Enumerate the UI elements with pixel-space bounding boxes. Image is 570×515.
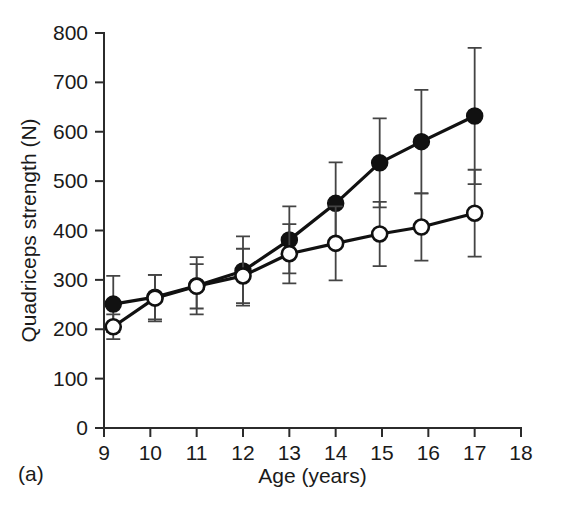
- data-point-open: [372, 226, 387, 241]
- x-tick-label: 14: [324, 441, 348, 464]
- y-tick-label: 300: [53, 268, 88, 291]
- data-point-open: [189, 279, 204, 294]
- x-tick-label: 18: [509, 441, 532, 464]
- data-point-open: [467, 206, 482, 221]
- x-tick-label: 13: [278, 441, 301, 464]
- data-point-open: [236, 268, 251, 283]
- data-point-filled: [372, 155, 388, 171]
- x-tick-label: 16: [417, 441, 440, 464]
- x-tick-label: 12: [231, 441, 254, 464]
- x-axis-title: Age (years): [258, 464, 367, 487]
- x-tick-label: 11: [186, 441, 208, 464]
- data-point-open: [282, 246, 297, 261]
- y-tick-label: 100: [53, 367, 88, 390]
- data-point-open: [106, 319, 121, 334]
- y-tick-label: 0: [76, 416, 88, 439]
- data-point-filled: [467, 108, 483, 124]
- data-point-open: [328, 236, 343, 251]
- x-tick-label: 9: [98, 441, 110, 464]
- data-point-open: [414, 220, 429, 235]
- x-tick-label: 17: [463, 441, 486, 464]
- y-tick-label: 700: [53, 70, 88, 93]
- x-tick-label: 15: [370, 441, 393, 464]
- figure-panel: 0100200300400500600700800 91011121314151…: [0, 0, 570, 515]
- data-point-filled: [105, 296, 121, 312]
- data-point-open: [147, 291, 162, 306]
- y-tick-label: 800: [53, 21, 88, 44]
- y-tick-label: 400: [53, 219, 88, 242]
- y-axis-title: Quadriceps strength (N): [17, 118, 40, 342]
- quadriceps-strength-chart: 0100200300400500600700800 91011121314151…: [0, 0, 570, 515]
- panel-label: (a): [18, 462, 44, 485]
- y-tick-label: 600: [53, 120, 88, 143]
- y-tick-label: 500: [53, 169, 88, 192]
- x-tick-label: 10: [139, 441, 162, 464]
- y-tick-label: 200: [53, 317, 88, 340]
- data-point-filled: [413, 134, 429, 150]
